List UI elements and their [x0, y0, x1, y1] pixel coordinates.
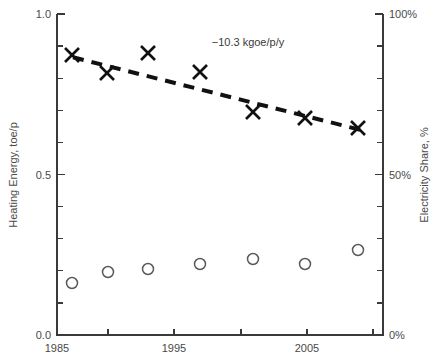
- right-axis-ticks: [375, 14, 383, 335]
- y2tick-label-0: 0%: [389, 329, 405, 341]
- data-point-x-1990: [100, 66, 114, 80]
- ytick-label-1: 1.0: [36, 8, 51, 20]
- y-axis-title: Heating Energy, toe/p: [7, 122, 19, 228]
- y2-axis-title: Electricity Share, %: [418, 127, 430, 223]
- data-point-x-1987: [65, 48, 79, 62]
- y2tick-label-50: 50%: [389, 169, 411, 181]
- data-point-o-1990: [103, 267, 114, 278]
- slope-annotation: −10.3 kgoe/p/y: [212, 36, 285, 48]
- scatter-chart: 1.0 0.5 0.0 100% 50% 0% 1: [0, 0, 439, 361]
- data-point-o-2012: [353, 245, 364, 256]
- xtick-label-2005: 2005: [295, 342, 319, 354]
- data-point-x-2007: [298, 111, 312, 125]
- data-point-o-1994: [143, 264, 154, 275]
- data-point-o-2003: [248, 254, 259, 265]
- ytick-label-0: 0.0: [36, 329, 51, 341]
- data-point-o-1987: [67, 278, 78, 289]
- data-point-x-2003: [246, 105, 260, 119]
- data-point-o-1998: [195, 259, 206, 270]
- x-axis-ticks: [57, 327, 373, 335]
- chart-container: 1.0 0.5 0.0 100% 50% 0% 1: [0, 0, 439, 361]
- ytick-label-0point5: 0.5: [36, 169, 51, 181]
- trend-line-heating-energy: [73, 57, 366, 131]
- axis-frame: [57, 14, 383, 335]
- xtick-label-1985: 1985: [45, 342, 69, 354]
- data-point-o-2007: [300, 259, 311, 270]
- data-point-x-1994: [141, 46, 155, 60]
- xtick-label-1995: 1995: [162, 342, 186, 354]
- data-point-x-1998: [193, 65, 207, 79]
- left-axis-ticks: [57, 14, 65, 335]
- series-electricity-share-markers: [67, 245, 364, 289]
- y2tick-label-100: 100%: [389, 8, 417, 20]
